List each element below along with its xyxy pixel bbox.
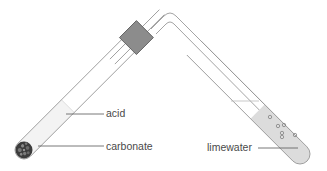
acid-label: acid — [106, 107, 125, 119]
apparatus-drawing — [0, 0, 327, 171]
carbonate-label: carbonate — [106, 140, 153, 152]
apparatus-diagram: acid carbonate limewater — [0, 0, 327, 171]
rubber-stopper — [119, 21, 153, 55]
limewater-liquid — [251, 105, 315, 169]
limewater-label: limewater — [207, 141, 252, 153]
